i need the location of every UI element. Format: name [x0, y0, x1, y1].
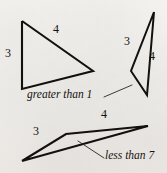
less-than-leader-line: [78, 141, 104, 158]
thin-triangle-side-label-4: 4: [149, 50, 155, 62]
tall-triangle-side-label-3: 3: [5, 47, 11, 59]
flat-shape-side-label-4: 4: [101, 108, 107, 120]
caption-greater-than-1: greater than 1: [27, 89, 92, 101]
greater-than-leader-line: [104, 85, 132, 97]
flat-shape-side-label-3: 3: [33, 125, 39, 137]
tall-triangle-side-label-4: 4: [53, 23, 59, 35]
caption-less-than-7: less than 7: [105, 150, 154, 162]
figure-root: 3 4 3 4 3 4 greater than 1 less than 7: [0, 0, 167, 173]
geometry-canvas: [0, 0, 167, 173]
thin-triangle-side-label-3: 3: [124, 35, 130, 47]
